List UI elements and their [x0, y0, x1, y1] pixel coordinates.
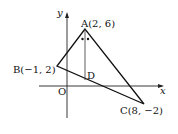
y-axis-arrow-icon — [65, 12, 69, 18]
x-axis-label: x — [160, 86, 166, 96]
angle-mark-left-icon — [81, 38, 83, 40]
angle-mark-right-icon — [87, 38, 89, 40]
point-a-label: A(2, 6) — [81, 19, 115, 29]
point-b-label: B(−1, 2) — [13, 65, 56, 75]
origin-label: O — [58, 87, 66, 97]
triangle-abc — [57, 29, 144, 104]
point-d-label: D — [87, 71, 95, 81]
y-axis-label: y — [57, 8, 63, 18]
diagram-canvas: y x O A(2, 6) B(−1, 2) C(8, −2) D — [0, 0, 178, 134]
point-c-label: C(8, −2) — [120, 106, 163, 116]
